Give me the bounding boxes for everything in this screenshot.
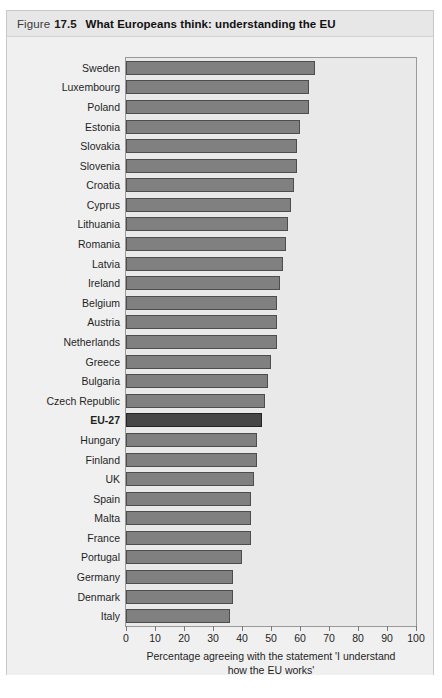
bar [126,315,277,329]
bar-row: Sweden [126,59,416,77]
bar-row: Croatia [126,176,416,194]
bar-row: Bulgaria [126,372,416,390]
bar [126,433,257,447]
x-axis-tick-label: 100 [407,632,425,644]
bar-row: Slovakia [126,137,416,155]
bar-row: Latvia [126,255,416,273]
bar [126,276,280,290]
bar-row: Italy [126,607,416,625]
bar [126,590,233,604]
bar-row: Germany [126,568,416,586]
x-axis-tick [300,626,301,631]
bar-category-label: Slovakia [80,137,120,155]
bar-category-label: EU-27 [90,411,120,429]
x-axis-tick [242,626,243,631]
bar-row: Poland [126,98,416,116]
bar [126,198,291,212]
x-axis-tick-label: 50 [265,632,277,644]
bar-row: Slovenia [126,157,416,175]
bar [126,355,271,369]
bar-category-label: Luxembourg [62,78,120,96]
x-axis-tick-label: 10 [149,632,161,644]
bar [126,237,286,251]
bar-row: Austria [126,313,416,331]
x-axis-tick-label: 90 [381,632,393,644]
bar [126,550,242,564]
x-axis-tick [329,626,330,631]
bar-category-label: Croatia [86,176,120,194]
bar-category-label: France [87,529,120,547]
bar-row: Finland [126,451,416,469]
bar-category-label: Slovenia [80,157,120,175]
bar-category-label: Portugal [81,548,120,566]
figure-title-bar: Figure 17.5 What Europeans think: unders… [7,11,433,37]
bar-row: Spain [126,490,416,508]
x-axis-tick [358,626,359,631]
bar-category-label: UK [105,470,120,488]
bar-row: Denmark [126,588,416,606]
x-axis-tick [155,626,156,631]
bar-row: France [126,529,416,547]
x-axis-tick-label: 30 [207,632,219,644]
bar-row: Estonia [126,118,416,136]
bar-category-label: Czech Republic [46,392,120,410]
bar [126,453,257,467]
bar-category-label: Cyprus [87,196,120,214]
bar [126,335,277,349]
x-axis-tick [213,626,214,631]
x-axis-tick-label: 0 [123,632,129,644]
bar-row: Cyprus [126,196,416,214]
bar-category-label: Netherlands [63,333,120,351]
bar-category-label: Malta [94,509,120,527]
bar [126,374,268,388]
bar-category-label: Austria [87,313,120,331]
bar-category-label: Estonia [85,118,120,136]
x-axis-tick [126,626,127,631]
bar-category-label: Romania [78,235,120,253]
x-axis-tick [271,626,272,631]
x-axis-title-line1: Percentage agreeing with the statement '… [147,650,396,662]
chart-canvas: SwedenLuxembourgPolandEstoniaSlovakiaSlo… [7,37,433,675]
figure-title: What Europeans think: understanding the … [86,18,336,30]
bar-category-label: Lithuania [77,215,120,233]
bar-category-label: Sweden [82,59,120,77]
bar [126,80,309,94]
bar-row: Malta [126,509,416,527]
bar-row: Hungary [126,431,416,449]
x-axis-tick-label: 60 [294,632,306,644]
bar [126,257,283,271]
bar [126,511,251,525]
bar-category-label: Finland [86,451,120,469]
bar [126,217,288,231]
bar-category-label: Denmark [77,588,120,606]
bar [126,159,297,173]
bar-row: Greece [126,353,416,371]
bar [126,178,294,192]
bars-container: SwedenLuxembourgPolandEstoniaSlovakiaSlo… [126,58,416,626]
bar [126,139,297,153]
bar [126,472,254,486]
bar [126,296,277,310]
bar-category-label: Germany [77,568,120,586]
bar-category-label: Spain [93,490,120,508]
figure-label-word: Figure [17,18,50,30]
bar [126,394,265,408]
x-axis-tick [184,626,185,631]
bar [126,100,309,114]
bar [126,120,300,134]
bar [126,61,315,75]
bar [126,609,230,623]
bar [126,492,251,506]
x-axis-tick-label: 80 [352,632,364,644]
x-axis-tick-label: 70 [323,632,335,644]
x-axis-tick-label: 40 [236,632,248,644]
x-axis-title-line2: how the EU works' [125,663,417,677]
bar-row: UK [126,470,416,488]
figure-frame: Figure 17.5 What Europeans think: unders… [6,10,434,675]
figure-number: 17.5 [54,18,76,30]
bar-category-label: Hungary [80,431,120,449]
bar-category-label: Latvia [92,255,120,273]
bar-category-label: Poland [87,98,120,116]
plot-area: SwedenLuxembourgPolandEstoniaSlovakiaSlo… [125,57,417,627]
bar-row: Lithuania [126,215,416,233]
